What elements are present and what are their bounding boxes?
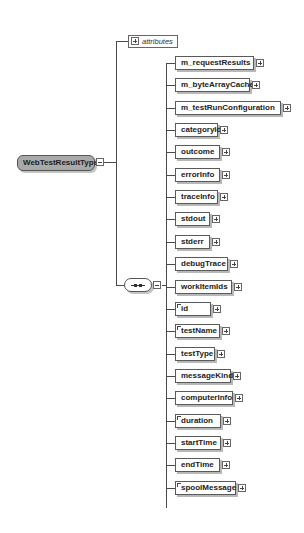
element-label: m_requestResults: [181, 57, 250, 69]
plus-box-icon[interactable]: [223, 439, 231, 447]
plus-box-icon[interactable]: [220, 193, 228, 201]
element-node[interactable]: testName: [175, 324, 220, 338]
element-connector: [166, 130, 175, 131]
plus-box-icon[interactable]: [217, 350, 225, 358]
attribute-flag-icon: [177, 304, 181, 308]
sequence-dots-icon: [131, 285, 145, 286]
plus-box-icon[interactable]: [212, 215, 220, 223]
plus-box-icon[interactable]: [222, 171, 230, 179]
element-node[interactable]: computerInfo: [175, 391, 233, 405]
element-connector: [166, 264, 175, 265]
element-node[interactable]: stderr: [175, 235, 210, 249]
element-label: m_testRunConfiguration: [181, 102, 275, 114]
element-node[interactable]: stdout: [175, 212, 210, 226]
element-node[interactable]: duration: [175, 414, 221, 428]
element-node[interactable]: categoryId: [175, 123, 218, 137]
element-connector: [166, 331, 175, 332]
element-label: traceInfo: [181, 191, 215, 203]
element-connector: [166, 287, 175, 288]
plus-box-icon[interactable]: [222, 148, 230, 156]
root-element-node[interactable]: WebTestResultType: [17, 155, 95, 171]
element-label: id: [181, 303, 188, 315]
plus-box-icon[interactable]: [256, 59, 264, 67]
plus-box-icon[interactable]: [233, 372, 241, 380]
element-connector: [166, 488, 175, 489]
element-label: stderr: [181, 236, 204, 248]
attribute-flag-icon: [177, 483, 181, 487]
plus-box-icon[interactable]: [222, 461, 230, 469]
element-label: messageKind: [181, 370, 233, 382]
element-connector: [166, 309, 175, 310]
plus-box-icon[interactable]: [252, 81, 260, 89]
element-connector: [166, 421, 175, 422]
root-connector: [104, 162, 116, 163]
attributes-connector: [116, 41, 128, 42]
element-label: errorInfo: [181, 169, 214, 181]
attribute-flag-icon: [177, 416, 181, 420]
main-trunk: [116, 41, 117, 285]
element-label: categoryId: [181, 124, 221, 136]
element-node[interactable]: m_testRunConfiguration: [175, 101, 281, 115]
plus-box-icon[interactable]: [235, 394, 243, 402]
element-node[interactable]: traceInfo: [175, 190, 218, 204]
root-element-label: WebTestResultType: [23, 158, 98, 167]
element-label: debugTrace: [181, 258, 226, 270]
element-connector: [166, 443, 175, 444]
plus-box-icon[interactable]: [223, 417, 231, 425]
minus-box-icon[interactable]: [96, 158, 104, 166]
element-label: outcome: [181, 146, 214, 158]
element-label: computerInfo: [181, 392, 232, 404]
element-node[interactable]: id: [175, 302, 211, 316]
element-connector: [166, 242, 175, 243]
plus-box-icon[interactable]: [234, 283, 242, 291]
element-node[interactable]: endTime: [175, 458, 220, 472]
element-connector: [166, 108, 175, 109]
element-node[interactable]: m_requestResults: [175, 56, 254, 70]
element-connector: [166, 63, 175, 64]
element-connector: [166, 376, 175, 377]
element-node[interactable]: errorInfo: [175, 168, 220, 182]
element-label: testType: [181, 348, 213, 360]
plus-box-icon[interactable]: [222, 327, 230, 335]
element-label: m_byteArrayCache: [181, 79, 254, 91]
attribute-flag-icon: [177, 326, 181, 330]
element-connector: [166, 219, 175, 220]
plus-box-icon[interactable]: [238, 484, 246, 492]
sequence-connector: [116, 285, 124, 286]
element-label: stdout: [181, 213, 205, 225]
element-node[interactable]: testType: [175, 347, 215, 361]
element-label: testName: [181, 325, 217, 337]
element-label: startTime: [181, 437, 217, 449]
element-connector: [166, 175, 175, 176]
element-node[interactable]: debugTrace: [175, 257, 228, 271]
element-connector: [166, 85, 175, 86]
plus-box-icon[interactable]: [230, 260, 238, 268]
plus-box-icon[interactable]: [220, 126, 228, 134]
element-node[interactable]: m_byteArrayCache: [175, 78, 250, 92]
element-connector: [166, 354, 175, 355]
element-node[interactable]: startTime: [175, 436, 221, 450]
element-label: endTime: [181, 459, 214, 471]
element-label: workItemIds: [181, 281, 228, 293]
element-label: spoolMessage: [181, 482, 236, 494]
plus-box-icon[interactable]: [283, 104, 291, 112]
element-node[interactable]: spoolMessage: [175, 481, 236, 495]
element-node[interactable]: workItemIds: [175, 280, 232, 294]
element-label: duration: [181, 415, 213, 427]
element-node[interactable]: outcome: [175, 145, 220, 159]
plus-box-icon[interactable]: [131, 37, 139, 45]
element-connector: [166, 197, 175, 198]
element-connector: [166, 152, 175, 153]
element-connector: [166, 398, 175, 399]
sequence-compositor[interactable]: [124, 278, 152, 292]
sequence-collapse-icon[interactable]: [153, 281, 161, 289]
element-connector: [166, 465, 175, 466]
plus-box-icon[interactable]: [212, 238, 220, 246]
element-node[interactable]: messageKind: [175, 369, 231, 383]
plus-box-icon[interactable]: [213, 305, 221, 313]
attributes-label: attributes: [142, 37, 173, 46]
